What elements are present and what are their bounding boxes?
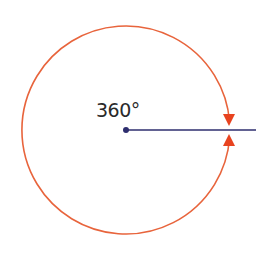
full-angle-diagram	[0, 0, 273, 253]
angle-label: 360°	[96, 99, 140, 121]
vertex-dot	[123, 127, 129, 133]
arrowhead-up-icon	[223, 134, 235, 146]
arrowhead-down-icon	[223, 114, 235, 126]
